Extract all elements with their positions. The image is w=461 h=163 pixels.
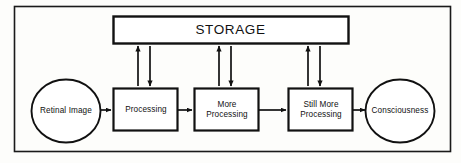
storage-box[interactable] [114, 17, 349, 44]
flow-diagram [0, 0, 461, 163]
consciousness-circle[interactable] [366, 80, 435, 143]
processing-box[interactable] [114, 89, 178, 131]
retinal-image-circle[interactable] [32, 80, 101, 143]
diagram-canvas: STORAGE Retinal Image Processing More Pr… [0, 0, 461, 163]
more-processing-box[interactable] [195, 89, 259, 131]
still-more-processing-box[interactable] [289, 89, 353, 131]
